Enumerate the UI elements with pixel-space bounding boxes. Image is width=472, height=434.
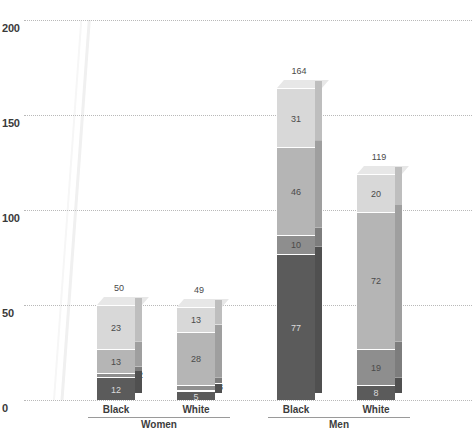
bar-side-face bbox=[215, 384, 222, 394]
bar-side-face bbox=[395, 205, 402, 342]
bar-segment-label: 5 bbox=[177, 392, 215, 402]
bar-side-face bbox=[315, 247, 322, 393]
bar-side-face bbox=[395, 378, 402, 393]
bar-segment-label: 12 bbox=[97, 385, 135, 395]
category-label-men-black: Black bbox=[261, 404, 331, 416]
gridline-50 bbox=[24, 305, 472, 306]
chart-container: 200150100500 502313212491328351643146107… bbox=[0, 0, 472, 434]
bar-side-face bbox=[215, 300, 222, 325]
bar-side-face bbox=[315, 140, 322, 227]
bar-segment-label: 28 bbox=[177, 354, 215, 364]
bar-segment-label: 8 bbox=[357, 388, 395, 398]
gridline-150 bbox=[24, 115, 472, 116]
bar-side-face bbox=[215, 325, 222, 378]
y-tick-label-200: 200 bbox=[2, 22, 20, 34]
bar-men-black[interactable]: 16431461077 bbox=[277, 0, 315, 400]
bar-segment-label: 13 bbox=[97, 357, 135, 367]
bar-side-face bbox=[395, 167, 402, 205]
bar-total-label: 119 bbox=[349, 152, 409, 162]
bar-segment-label: 31 bbox=[277, 114, 315, 124]
category-label-women-white: White bbox=[161, 404, 231, 416]
bar-segment-label: 13 bbox=[177, 315, 215, 325]
bar-side-face bbox=[395, 342, 402, 378]
bar-segment[interactable]: 12 bbox=[97, 377, 135, 400]
bar-segment-label: 19 bbox=[357, 363, 395, 373]
bar-segment[interactable]: 19 bbox=[357, 349, 395, 385]
group-label-women: Women bbox=[89, 419, 229, 431]
bar-segment[interactable]: 28 bbox=[177, 332, 215, 385]
group-label-men: Men bbox=[269, 419, 409, 431]
group-rule-men bbox=[268, 417, 410, 418]
category-label-women-black: Black bbox=[81, 404, 151, 416]
bar-side-face bbox=[135, 366, 142, 370]
bar-women-black[interactable]: 502313212 bbox=[97, 0, 135, 400]
bar-total-label: 164 bbox=[269, 66, 329, 76]
bar-segment[interactable]: 23 bbox=[97, 305, 135, 349]
bar-segment-label: 20 bbox=[357, 189, 395, 199]
gridline-0 bbox=[24, 400, 472, 401]
bar-segment[interactable]: 77 bbox=[277, 254, 315, 400]
category-label-men-white: White bbox=[341, 404, 411, 416]
bar-segment[interactable]: 10 bbox=[277, 235, 315, 254]
bar-men-white[interactable]: 1192072198 bbox=[357, 0, 395, 400]
bar-segment[interactable]: 20 bbox=[357, 174, 395, 212]
bar-segment[interactable]: 5 bbox=[177, 391, 215, 401]
bar-segment[interactable]: 31 bbox=[277, 88, 315, 147]
bar-side-face bbox=[215, 378, 222, 384]
bar-segment[interactable]: 72 bbox=[357, 212, 395, 349]
bar-side-face bbox=[315, 228, 322, 247]
gridline-100 bbox=[24, 210, 472, 211]
y-tick-label-150: 150 bbox=[2, 117, 20, 129]
bar-segment-label: 72 bbox=[357, 276, 395, 286]
bar-segment-label: 46 bbox=[277, 187, 315, 197]
bar-side-face bbox=[135, 370, 142, 393]
bar-side-face bbox=[315, 81, 322, 140]
gridline-200 bbox=[24, 20, 472, 21]
bar-segment[interactable]: 8 bbox=[357, 385, 395, 400]
bar-total-label: 49 bbox=[169, 285, 229, 295]
y-tick-label-50: 50 bbox=[2, 307, 14, 319]
bar-segment-label: 77 bbox=[277, 323, 315, 333]
bar-segment[interactable]: 46 bbox=[277, 147, 315, 234]
bar-women-white[interactable]: 49132835 bbox=[177, 0, 215, 400]
bar-segment[interactable]: 13 bbox=[97, 349, 135, 374]
y-tick-label-100: 100 bbox=[2, 212, 20, 224]
bar-segment-label: 10 bbox=[277, 240, 315, 250]
bar-segment-label: 23 bbox=[97, 323, 135, 333]
bar-side-face bbox=[135, 342, 142, 367]
group-rule-women bbox=[88, 417, 230, 418]
bar-total-label: 50 bbox=[89, 283, 149, 293]
bar-segment[interactable]: 13 bbox=[177, 307, 215, 332]
y-tick-label-0: 0 bbox=[2, 402, 8, 414]
bar-side-face bbox=[135, 298, 142, 342]
